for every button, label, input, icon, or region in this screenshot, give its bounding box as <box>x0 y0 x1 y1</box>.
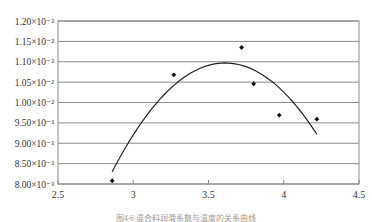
data-point-diamond <box>314 117 319 122</box>
x-tick-label: 3.5 <box>202 189 215 200</box>
data-point-diamond <box>171 72 176 77</box>
y-axis-tick-labels: 8.00×10⁻³8.50×10⁻³9.00×10⁻³9.50×10⁻³1.00… <box>15 17 54 190</box>
x-tick-label: 2.5 <box>52 189 65 200</box>
x-tick-label: 4.5 <box>353 189 366 200</box>
y-tick-label: 8.00×10⁻³ <box>15 180 54 190</box>
y-tick-label: 9.50×10⁻³ <box>15 118 54 128</box>
x-axis-tick-labels: 2.533.544.5 <box>52 189 366 200</box>
x-tick-label: 3 <box>131 189 136 200</box>
y-tick-label: 8.50×10⁻³ <box>15 159 54 169</box>
y-tick-label: 1.10×10⁻² <box>15 57 54 67</box>
figure-caption: 图4-6 混合料润滑系数与温度的关系曲线 <box>0 212 372 222</box>
x-tick-label: 4 <box>281 189 286 200</box>
y-tick-label: 1.15×10⁻² <box>15 37 54 47</box>
y-tick-label: 9.00×10⁻³ <box>15 139 54 149</box>
data-point-diamond <box>277 113 282 118</box>
y-tick-label: 1.05×10⁻² <box>15 78 54 88</box>
y-tick-label: 1.00×10⁻² <box>15 98 54 108</box>
chart: 8.00×10⁻³8.50×10⁻³9.00×10⁻³9.50×10⁻³1.00… <box>0 0 372 222</box>
data-point-diamond <box>110 178 115 183</box>
fitted-curve <box>112 63 317 172</box>
gridlines <box>58 21 359 184</box>
data-points <box>110 45 319 183</box>
data-point-diamond <box>239 45 244 50</box>
y-tick-label: 1.20×10⁻² <box>15 17 54 27</box>
